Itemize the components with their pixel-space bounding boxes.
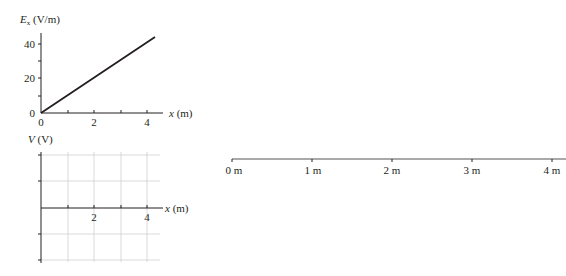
ruler-label-3m: 3 m	[464, 164, 481, 176]
ex-xtick-4: 4	[144, 116, 150, 128]
ex-graph: Ex (V/m) 40 20 0 0 2 4 x (m)	[19, 13, 193, 128]
v-grid	[41, 152, 160, 262]
ruler-label-0m: 0 m	[226, 164, 243, 176]
v-xlabel: x (m)	[164, 202, 189, 215]
distance-ruler: 0 m 1 m 2 m 3 m 4 m	[226, 159, 566, 176]
ex-line	[41, 37, 155, 113]
ex-ylabel: Ex (V/m)	[19, 13, 60, 27]
v-ylabel: V (V)	[28, 133, 53, 146]
v-graph: V (V) 2 4 x (m)	[28, 133, 189, 263]
ruler-label-1m: 1 m	[305, 164, 322, 176]
figure-canvas: Ex (V/m) 40 20 0 0 2 4 x (m)	[0, 0, 566, 276]
ex-xlabel: x (m)	[168, 107, 193, 120]
ex-ytick-0: 0	[30, 107, 36, 119]
ex-ytick-40: 40	[24, 38, 36, 50]
ex-xtick-2: 2	[91, 116, 97, 128]
ex-xtick-0: 0	[38, 116, 44, 128]
v-xtick-4: 4	[144, 211, 150, 223]
ex-ytick-20: 20	[24, 72, 36, 84]
ruler-label-2m: 2 m	[384, 164, 401, 176]
v-xtick-2: 2	[91, 211, 97, 223]
ruler-label-4m: 4 m	[544, 164, 561, 176]
